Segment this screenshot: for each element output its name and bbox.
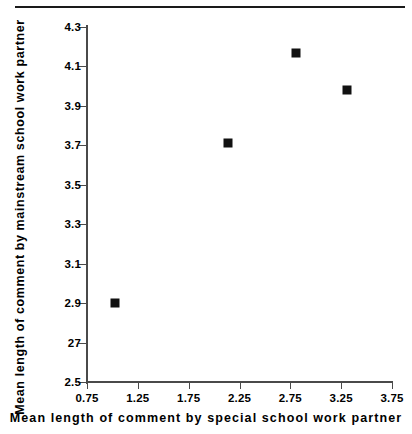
x-tick-label: 3.75: [380, 392, 403, 404]
y-tick-label: 3.3: [64, 218, 81, 230]
y-axis-title: Mean length of comment by mainstream sch…: [6, 0, 34, 434]
x-tick-mark: [392, 382, 393, 389]
y-tick-label: 3.9: [64, 100, 81, 112]
x-axis-title: Mean length of comment by special school…: [0, 411, 412, 425]
x-tick-mark: [189, 382, 190, 389]
x-tick-label: 1.75: [177, 392, 200, 404]
y-tick-label: 4.3: [64, 21, 81, 33]
x-tick-mark: [240, 382, 241, 389]
data-point-marker: [224, 139, 233, 148]
x-tick-mark: [290, 382, 291, 389]
y-tick-label: 2.9: [64, 297, 81, 309]
x-tick-label: 0.75: [75, 392, 98, 404]
x-tick-mark: [138, 382, 139, 389]
x-tick-label: 1.25: [126, 392, 149, 404]
y-tick-label: 3.1: [64, 258, 81, 270]
y-tick-label: 3.5: [64, 179, 81, 191]
y-tick-label: 4.1: [64, 60, 81, 72]
y-tick-label: 3.7: [64, 139, 81, 151]
plot-area: [87, 27, 392, 382]
y-axis-title-host: Mean length of comment by mainstream sch…: [6, 0, 34, 434]
data-point-marker: [343, 86, 352, 95]
x-tick-mark: [341, 382, 342, 389]
data-point-marker: [111, 299, 120, 308]
y-tick-label: 27: [68, 337, 81, 349]
data-point-marker: [292, 48, 301, 57]
x-tick-label: 2.25: [228, 392, 251, 404]
y-tick-label: 2.5: [64, 376, 81, 388]
x-tick-label: 3.25: [330, 392, 353, 404]
x-tick-mark: [87, 382, 88, 389]
scatter-chart-figure: Mean length of comment by mainstream sch…: [0, 0, 412, 434]
header-rule: [15, 6, 405, 8]
x-tick-label: 2.75: [279, 392, 302, 404]
